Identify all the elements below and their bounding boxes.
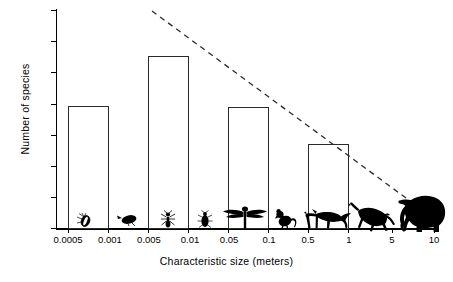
y-tick-mark [51,135,57,136]
x-tick-label-8: 5 [389,234,394,245]
x-tick-label-1: 0.001 [98,234,122,245]
y-tick-mark [51,72,57,73]
x-tick-label-5: 0.1 [262,234,275,245]
mite-icon [75,212,95,228]
x-tick-label-3: 0.01 [181,234,200,245]
x-tick-label-0: 0.0005 [53,234,82,245]
x-tick-label-2: 0.005 [137,234,161,245]
x-tick-label-7: 1 [346,234,351,245]
elephant-icon [391,190,447,234]
mouse-icon [275,208,301,230]
y-tick-mark [51,197,57,198]
x-tick-label-4: 0.05 [220,234,239,245]
x-tick-label-6: 0.5 [301,234,314,245]
ant-icon [158,210,178,228]
y-tick-mark [51,41,57,42]
fox-icon [304,206,352,230]
species-size-distribution-chart: Number of species 1 10 102 103 104 105 1… [0,0,453,282]
bar-mite-range [68,106,109,229]
beetle-icon [196,210,214,228]
dragonfly-icon [222,204,268,230]
x-tick-label-9: 10 [429,234,440,245]
y-tick-mark [51,104,57,105]
bar-ant-range [148,56,189,229]
y-axis-title: Number of species [19,29,31,189]
y-tick-mark [51,228,57,229]
x-axis-title: Characteristic size (meters) [0,255,453,267]
aphid-icon [116,212,140,226]
y-tick-mark [51,166,57,167]
y-tick-mark [51,10,57,11]
horse-icon [348,202,396,232]
